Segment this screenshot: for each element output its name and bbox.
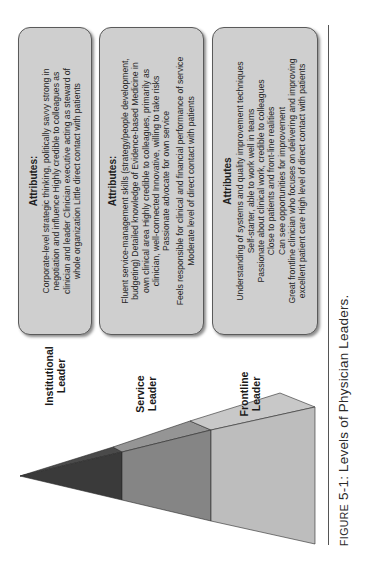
attribute-line: excellent patient care High level of dir…	[297, 64, 307, 299]
attribute-line: Understanding of systems and quality imp…	[235, 61, 245, 300]
caption-figure-number: 5-1:	[336, 476, 351, 500]
attribute-line: Passionate advocate for own service	[161, 111, 171, 251]
attribute-line: Great frontline clinician who focuses on…	[287, 58, 297, 303]
attribute-line: budgeting) Detailed knowledge of Evidenc…	[130, 62, 140, 299]
attribute-line: own clinical area Highly credible to col…	[141, 69, 151, 293]
attributes-heading: Attributes:	[28, 156, 40, 207]
caption-title: Levels of Physician Leaders.	[336, 295, 351, 472]
figure-caption: FIGURE 5-1: Levels of Physician Leaders.	[336, 295, 351, 547]
attributes-text-service: Attributes: Fluent service-management sk…	[99, 27, 204, 335]
figure-levels-of-physician-leaders: Attributes: Corporate-level strategic th…	[0, 0, 368, 563]
attributes-heading: Attributes:	[107, 156, 119, 207]
attribute-line: Can see opportunities for improvement	[277, 107, 287, 255]
pyramid-section-frontline	[211, 407, 315, 544]
caption-divider	[328, 25, 329, 545]
level-label-line: Leader	[55, 336, 67, 416]
caption-figure-prefix: FIGURE	[338, 504, 350, 546]
attributes-text-institutional: Attributes: Corporate-level strategic th…	[18, 27, 92, 335]
attribute-line: Self-starter, able to work well in teams	[246, 109, 256, 254]
level-label-institutional: Institutional Leader	[43, 336, 67, 416]
level-label-service: Service Leader	[134, 364, 158, 424]
attribute-line: Close to patients and front-line realiti…	[266, 107, 276, 256]
level-label-line: Leader	[146, 364, 158, 424]
attribute-line: Moderate level of direct contact with pa…	[186, 96, 196, 266]
level-label-line: Institutional	[43, 336, 55, 416]
level-label-frontline: Frontline Leader	[238, 364, 262, 424]
attribute-line: Feels responsible for clinical and finan…	[175, 57, 185, 305]
level-label-line: Leader	[250, 364, 262, 424]
attribute-line: Corporate-level strategic thinking, poli…	[41, 69, 51, 294]
attribute-line: Passionate about clinical work, credible…	[256, 79, 266, 282]
attribute-line: whole organization Little direct contact…	[72, 83, 82, 279]
attributes-heading: Attributes	[222, 157, 234, 204]
attribute-line: Fluent service-management skills (strate…	[120, 58, 130, 304]
pyramid-section-institutional	[20, 452, 122, 500]
attribute-line: clinician and leader Clinician executive…	[62, 68, 72, 294]
attributes-text-frontline: Attributes Understanding of systems and …	[212, 27, 318, 335]
attribute-line: clinician, well-connected Innovative, wi…	[151, 76, 161, 287]
level-label-line: Service	[134, 364, 146, 424]
level-label-line: Frontline	[238, 364, 250, 424]
attribute-line: negotiation and influence Highly credibl…	[51, 72, 61, 291]
